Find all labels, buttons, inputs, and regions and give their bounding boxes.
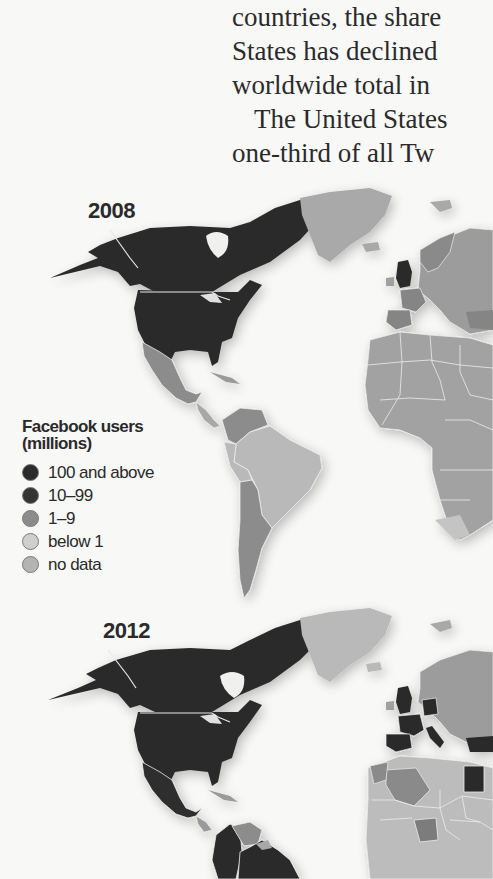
- region-spain-2012: [386, 734, 412, 752]
- legend-item-no-data: no data: [22, 553, 154, 576]
- region-uk: [396, 260, 412, 288]
- legend-item-100-and-above: 100 and above: [22, 461, 154, 484]
- legend-swatch-icon: [22, 487, 39, 504]
- region-germany-2012: [422, 698, 438, 716]
- legend-swatch-icon: [22, 510, 39, 527]
- year-label-2012: 2012: [103, 618, 150, 644]
- legend-title: Facebook users (millions): [22, 418, 154, 452]
- region-greenland-2012: [300, 608, 392, 682]
- legend-swatch-icon: [22, 556, 39, 573]
- legend-swatch-icon: [22, 464, 39, 481]
- legend: Facebook users (millions) 100 and above …: [22, 418, 154, 576]
- region-turkey: [466, 310, 493, 330]
- region-france-2012: [398, 714, 424, 736]
- map-2012: [48, 608, 493, 879]
- region-turkey-2012: [466, 736, 493, 752]
- region-central-america: [196, 402, 220, 428]
- region-egypt-2012: [464, 766, 484, 792]
- year-label-2008: 2008: [88, 198, 135, 224]
- region-uk-2012: [396, 686, 412, 714]
- legend-item-1-9: 1–9: [22, 507, 154, 530]
- region-italy-2012: [426, 726, 444, 748]
- legend-item-10-99: 10–99: [22, 484, 154, 507]
- legend-swatch-icon: [22, 533, 39, 550]
- region-greenland: [300, 188, 392, 262]
- region-spain: [386, 310, 412, 330]
- legend-item-below-1: below 1: [22, 530, 154, 553]
